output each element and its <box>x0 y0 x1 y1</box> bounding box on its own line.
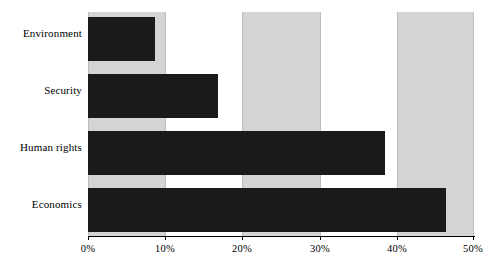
x-tick-label-30: 30% <box>310 243 330 255</box>
category-label-human-rights: Human rights <box>0 142 82 153</box>
x-tickmark-10 <box>165 236 166 240</box>
category-axis-labels: Environment Security Human rights Econom… <box>0 12 82 236</box>
gridline-50 <box>473 12 474 236</box>
x-tick-label-40: 40% <box>387 243 407 255</box>
category-label-security: Security <box>0 85 82 96</box>
category-label-environment: Environment <box>0 28 82 39</box>
x-axis-line <box>88 236 475 237</box>
bar-economics <box>88 188 446 232</box>
plot-area <box>88 12 474 236</box>
x-tickmark-20 <box>242 236 243 240</box>
x-tick-label-0: 0% <box>81 243 95 255</box>
bar-security <box>88 74 218 118</box>
x-tick-label-10: 10% <box>155 243 175 255</box>
bar-human-rights <box>88 131 385 175</box>
x-tickmark-40 <box>397 236 398 240</box>
category-label-economics: Economics <box>0 199 82 210</box>
x-tick-label-50: 50% <box>463 243 483 255</box>
bar-environment <box>88 17 155 61</box>
x-tick-label-20: 20% <box>232 243 252 255</box>
x-axis-tick-labels: 0% 10% 20% 30% 40% 50% <box>0 243 488 259</box>
x-tickmark-50 <box>473 236 474 240</box>
x-tickmark-0 <box>88 236 89 240</box>
x-tickmark-30 <box>320 236 321 240</box>
bar-chart: Environment Security Human rights Econom… <box>0 0 488 270</box>
